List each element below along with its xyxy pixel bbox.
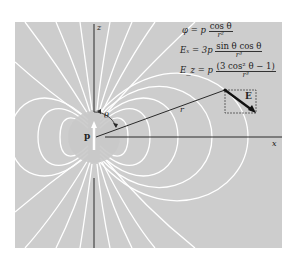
dipole-field-diagram bbox=[0, 0, 295, 259]
equation-potential-denominator: r² bbox=[209, 32, 233, 39]
z-axis-label: z bbox=[97, 24, 101, 32]
equation-ez: E_z = p (3 cos² θ − 1)r³ bbox=[180, 62, 276, 79]
equation-ex: Eₓ = 3p sin θ cos θr³ bbox=[180, 42, 262, 59]
field-label: E bbox=[245, 92, 252, 101]
theta-label: θ bbox=[104, 112, 109, 120]
equation-ez-denominator: r³ bbox=[216, 72, 276, 79]
x-axis-label: x bbox=[272, 140, 277, 148]
equation-potential: φ = p cos θr² bbox=[182, 22, 233, 39]
dipole-label: p bbox=[84, 132, 90, 141]
equation-ex-denominator: r³ bbox=[215, 52, 262, 59]
equation-ex-lhs: Eₓ = 3p bbox=[180, 45, 213, 55]
equation-ez-lhs: E_z = p bbox=[180, 65, 213, 75]
radius-label: r bbox=[180, 106, 184, 114]
equation-potential-lhs: φ = p bbox=[182, 25, 206, 35]
